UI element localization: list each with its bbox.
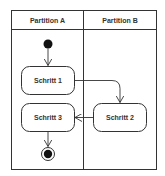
initial-node[interactable] (44, 40, 53, 49)
schritt-3-label: Schritt 3 (22, 104, 74, 131)
final-node-inner (44, 150, 52, 158)
schritt-2-label: Schritt 2 (94, 104, 146, 131)
partition-b-header: Partition B (84, 11, 156, 29)
partition-a-header: Partition A (12, 11, 83, 29)
schritt-1-label: Schritt 1 (22, 67, 74, 94)
